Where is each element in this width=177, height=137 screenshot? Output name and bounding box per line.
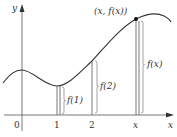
y-axis-label: y xyxy=(12,4,17,13)
tick-label-1: 1 xyxy=(54,121,60,130)
x-axis-label: x xyxy=(168,121,173,130)
segment-label-f2: f(2) xyxy=(100,82,116,91)
origin-label: 0 xyxy=(14,121,20,130)
segment-label-f1: f(1) xyxy=(67,96,83,105)
function-graph-diagram: y x 0 1 2 x (x, f(x)) f(1) f(2) f(x) xyxy=(0,0,177,137)
point-label: (x, f(x)) xyxy=(94,7,127,16)
brace-f1-icon xyxy=(62,87,66,114)
brace-f2-icon xyxy=(95,61,99,113)
segment-label-fx: f(x) xyxy=(147,60,162,69)
tick-label-x: x xyxy=(133,121,138,130)
y-axis-arrow-icon xyxy=(20,4,25,12)
function-curve xyxy=(3,14,171,86)
tick-label-2: 2 xyxy=(89,121,95,130)
x-axis-arrow-icon xyxy=(166,113,174,118)
point-marker-icon xyxy=(134,17,138,21)
brace-fx-icon xyxy=(141,21,145,113)
